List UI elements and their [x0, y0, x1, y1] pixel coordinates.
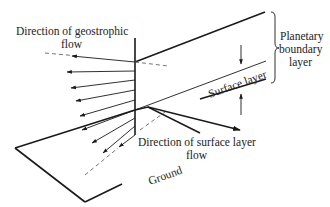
geostrophic-label-line2: flow [61, 38, 83, 50]
wind-vectors [67, 56, 135, 153]
ekman-spiral-diagram: Direction of geostrophic flow Planetary … [0, 0, 330, 207]
pbl-brace [271, 12, 279, 83]
pbl-label-line2: boundary [279, 43, 323, 56]
surface-flow-direction-dashed [85, 148, 118, 175]
surface-flow-arrow [119, 135, 135, 147]
pbl-label-line3: layer [289, 56, 312, 69]
ground-label: Ground [147, 164, 184, 187]
surface-flow-label-line1: Direction of surface layer [138, 136, 256, 149]
geostrophic-direction-dashed [45, 53, 78, 56]
ground-plane [15, 107, 200, 202]
surface-flow-dashed-upper [140, 112, 165, 130]
pbl-label-line1: Planetary [280, 30, 324, 43]
geostrophic-dashed-right [135, 62, 168, 66]
surface-layer-label: Surface layer [207, 68, 269, 101]
surface-flow-pointer [148, 107, 240, 130]
geostrophic-label-line1: Direction of geostrophic [16, 25, 128, 38]
surface-flow-label-line2: flow [186, 149, 208, 161]
pbl-top-edge [135, 12, 265, 62]
